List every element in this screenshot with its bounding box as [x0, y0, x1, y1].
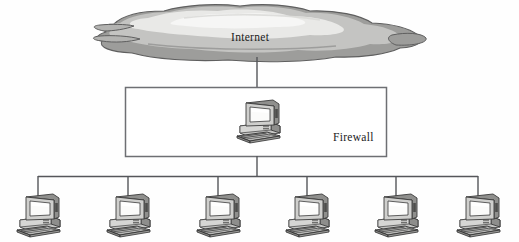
workstation-ws-4	[286, 194, 329, 237]
network-diagram-canvas: Internet Firewall	[0, 0, 519, 242]
workstation-ws-5	[375, 194, 418, 237]
internet-cloud-label: Internet	[231, 31, 269, 43]
workstation-ws-1	[17, 194, 60, 237]
workstation-ws-6	[457, 194, 500, 237]
workstation-ws-2	[107, 194, 150, 237]
workstation-ws-3	[197, 194, 240, 237]
firewall-label: Firewall	[333, 131, 374, 143]
workstation-drop-lines	[38, 176, 478, 196]
